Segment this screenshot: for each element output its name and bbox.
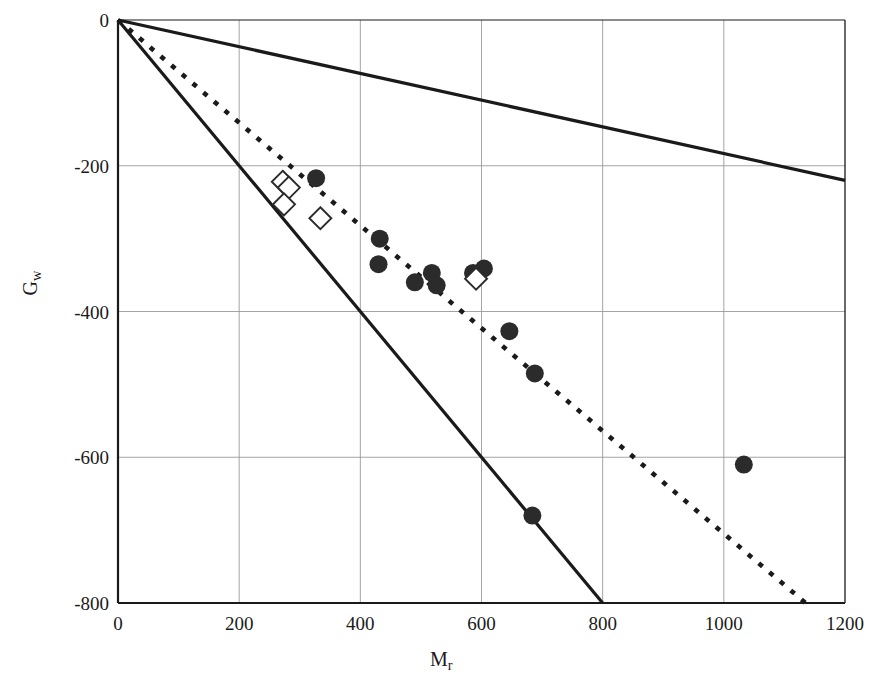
x-tick-label: 0 (113, 613, 123, 634)
x-axis-label-base: M (430, 648, 448, 670)
x-axis-label: Mr (430, 648, 453, 674)
data-point-filled-circle (428, 276, 446, 294)
data-point-filled-circle (307, 169, 325, 187)
plot-canvas: 0200400600800100012000-200-400-600-800 (0, 0, 880, 688)
y-tick-label: -800 (74, 593, 109, 614)
x-tick-label: 600 (467, 613, 496, 634)
data-markers (272, 169, 753, 524)
y-axis-label-subscript: w (28, 271, 44, 281)
data-point-filled-circle (523, 507, 541, 525)
gridlines (118, 20, 845, 603)
x-tick-label: 1000 (705, 613, 743, 634)
data-point-filled-circle (370, 255, 388, 273)
x-axis-label-subscript: r (448, 657, 453, 673)
scatter-plot-figure: 0200400600800100012000-200-400-600-800 G… (0, 0, 880, 688)
x-tick-label: 800 (588, 613, 617, 634)
x-tick-label: 400 (346, 613, 375, 634)
x-tick-label: 200 (225, 613, 254, 634)
x-tick-label: 1200 (826, 613, 864, 634)
data-point-filled-circle (500, 322, 518, 340)
y-tick-label: 0 (100, 10, 110, 31)
y-tick-label: -600 (74, 447, 109, 468)
data-point-filled-circle (526, 364, 544, 382)
y-tick-label: -400 (74, 302, 109, 323)
data-point-open-diamond (309, 207, 331, 229)
y-axis-label-base: G (19, 281, 41, 295)
data-point-filled-circle (735, 456, 753, 474)
y-tick-label: -200 (74, 156, 109, 177)
data-point-filled-circle (406, 273, 424, 291)
data-point-filled-circle (371, 230, 389, 248)
y-axis-label: Gw (19, 253, 45, 313)
tick-labels: 0200400600800100012000-200-400-600-800 (74, 10, 864, 634)
